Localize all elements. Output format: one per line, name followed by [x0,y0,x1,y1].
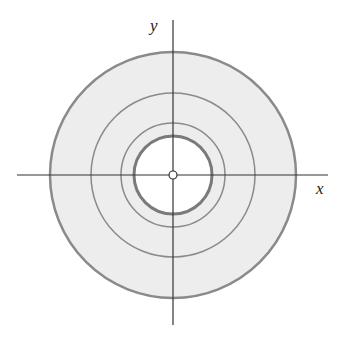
concentric-circles-diagram: x y [0,0,345,338]
origin-marker [169,171,177,179]
y-axis-label: y [148,16,158,35]
x-axis-label: x [315,179,324,198]
